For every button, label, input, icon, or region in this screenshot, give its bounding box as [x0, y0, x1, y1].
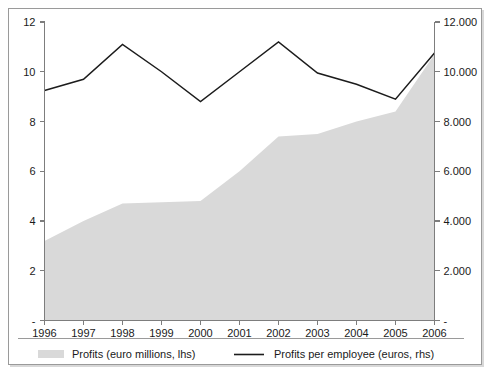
right-axis-tick-label: 8.000 — [444, 116, 472, 128]
left-axis-tick-label: 4 — [29, 215, 35, 227]
legend-swatch-area-icon — [38, 350, 64, 358]
right-axis-ticks: -2.0004.0006.0008.00010.00012.000 — [435, 16, 478, 327]
left-axis-tick-label: 12 — [23, 16, 35, 28]
x-axis-tick-label: 1998 — [110, 327, 134, 339]
x-axis-tick-label: 2001 — [227, 327, 251, 339]
right-axis-tick-label: 4.000 — [444, 215, 472, 227]
chart-figure: -24681012 -2.0004.0006.0008.00010.00012.… — [0, 0, 492, 377]
left-axis-tick-label: 6 — [29, 165, 35, 177]
right-axis-tick-label: 12.000 — [444, 16, 478, 28]
x-axis-tick-label: 2004 — [344, 327, 368, 339]
x-axis-tick-label: 2000 — [188, 327, 212, 339]
right-axis-tick-label: 6.000 — [444, 165, 472, 177]
x-axis-tick-label: 1999 — [149, 327, 173, 339]
chart-svg: -24681012 -2.0004.0006.0008.00010.00012.… — [0, 0, 492, 377]
right-axis-tick-label: - — [444, 315, 448, 327]
series-line-profits-per-employee — [45, 42, 435, 102]
legend: Profits (euro millions, lhs) Profits per… — [38, 348, 434, 360]
plot-area: -24681012 -2.0004.0006.0008.00010.00012.… — [0, 0, 492, 377]
left-axis-tick-label: 10 — [23, 66, 35, 78]
left-axis-tick-label: 8 — [29, 116, 35, 128]
right-axis-tick-label: 2.000 — [444, 265, 472, 277]
left-axis-tick-label: - — [32, 315, 36, 327]
x-axis-tick-label: 2006 — [422, 327, 446, 339]
left-axis-ticks: -24681012 — [23, 16, 44, 327]
x-axis-tick-label: 2005 — [383, 327, 407, 339]
legend-label-profits-per-employee: Profits per employee (euros, rhs) — [274, 348, 434, 360]
series-area-profits — [45, 54, 435, 320]
x-axis-tick-label: 2003 — [305, 327, 329, 339]
left-axis-tick-label: 2 — [29, 265, 35, 277]
x-axis-tick-label: 1997 — [71, 327, 95, 339]
x-axis-tick-label: 2002 — [266, 327, 290, 339]
right-axis-tick-label: 10.000 — [444, 66, 478, 78]
x-axis-ticks: 1996199719981999200020012002200320042005… — [32, 321, 446, 339]
x-axis-tick-label: 1996 — [32, 327, 56, 339]
legend-label-profits: Profits (euro millions, lhs) — [72, 348, 195, 360]
